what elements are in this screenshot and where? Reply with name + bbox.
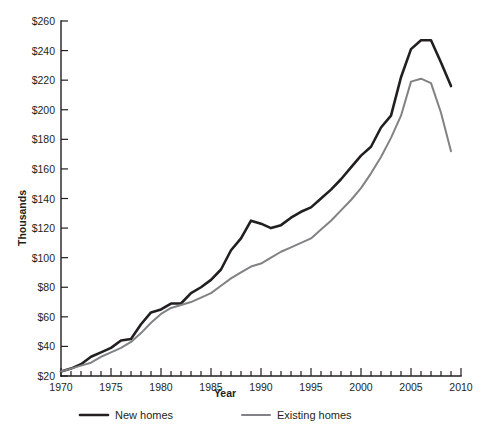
line-chart: $20$40$60$80$100$120$140$160$180$200$220… xyxy=(0,0,492,434)
y-tick-label: $80 xyxy=(37,281,55,293)
y-tick-labels: $20$40$60$80$100$120$140$160$180$200$220… xyxy=(32,15,56,382)
x-tick-label: 1975 xyxy=(99,381,123,393)
y-tick-marks xyxy=(61,21,68,376)
y-tick-label: $240 xyxy=(32,45,56,57)
chart-figure: $20$40$60$80$100$120$140$160$180$200$220… xyxy=(0,0,492,434)
x-axis-title: Year xyxy=(214,387,236,399)
y-tick-label: $100 xyxy=(32,252,56,264)
x-tick-label: 1970 xyxy=(49,381,73,393)
y-axis-title: Thousands xyxy=(16,190,28,246)
x-tick-labels: 197019751980198519901995200020052010 xyxy=(49,381,473,393)
y-tick-label: $180 xyxy=(32,133,56,145)
chart-legend: New homes Existing homes xyxy=(80,409,352,421)
x-tick-label: 2010 xyxy=(449,381,473,393)
y-axis: $20$40$60$80$100$120$140$160$180$200$220… xyxy=(16,15,68,382)
y-tick-label: $260 xyxy=(32,15,56,27)
y-tick-label: $140 xyxy=(32,193,56,205)
x-axis: 197019751980198519901995200020052010 Yea… xyxy=(49,368,473,399)
series-line-existing-homes xyxy=(61,79,451,372)
x-tick-label: 1995 xyxy=(299,381,323,393)
x-tick-marks xyxy=(61,368,461,376)
y-tick-label: $120 xyxy=(32,222,56,234)
x-tick-label: 1990 xyxy=(249,381,273,393)
data-series-group xyxy=(61,40,451,371)
y-tick-label: $220 xyxy=(32,74,56,86)
y-tick-label: $60 xyxy=(37,311,55,323)
y-tick-label: $200 xyxy=(32,104,56,116)
x-tick-label: 2005 xyxy=(399,381,423,393)
legend-label-new-homes: New homes xyxy=(115,409,174,421)
x-tick-label: 1980 xyxy=(149,381,173,393)
x-tick-label: 2000 xyxy=(349,381,373,393)
series-line-new-homes xyxy=(61,40,451,371)
legend-label-existing-homes: Existing homes xyxy=(277,409,352,421)
y-tick-label: $160 xyxy=(32,163,56,175)
y-tick-label: $40 xyxy=(37,340,55,352)
